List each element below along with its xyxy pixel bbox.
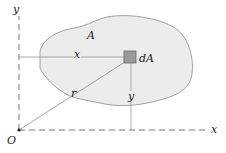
x-axis-label: x: [211, 124, 217, 135]
area-moment-diagram: y x O A dA x y r: [0, 0, 226, 153]
y-distance-label: y: [127, 91, 135, 102]
area-element: [124, 51, 136, 63]
origin-label: O: [7, 135, 16, 146]
x-distance-label: x: [73, 49, 81, 60]
area-region: [40, 16, 192, 106]
y-axis-label: y: [13, 4, 19, 15]
area-label: A: [87, 30, 95, 41]
radius-label: r: [71, 88, 76, 99]
diagram-graphics: [0, 0, 226, 153]
element-label: dA: [139, 53, 154, 64]
origin-point: [17, 128, 20, 131]
